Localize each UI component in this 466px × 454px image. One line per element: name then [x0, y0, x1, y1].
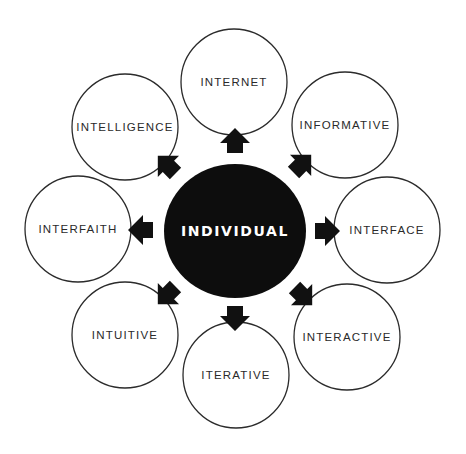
node-label: ITERATIVE	[201, 369, 270, 381]
node-label: INTUITIVE	[92, 329, 158, 341]
node-label: INTELLIGENCE	[76, 121, 173, 133]
node-label: INTERFACE	[349, 224, 424, 236]
node-interfaith: INTERFAITH	[25, 176, 131, 282]
node-label: INTERACTIVE	[302, 331, 391, 343]
center-label: INDIVIDUAL	[181, 223, 289, 239]
arrow-interfaith-icon	[128, 215, 153, 245]
diagram-canvas: INTERNETINFORMATIVEINTERFACEINTERACTIVEI…	[0, 0, 466, 454]
node-label: INFORMATIVE	[300, 119, 391, 131]
node-internet: INTERNET	[181, 29, 287, 135]
node-iterative: ITERATIVE	[183, 322, 289, 428]
center-node: INDIVIDUAL	[164, 164, 306, 298]
node-label: INTERFAITH	[38, 223, 117, 235]
node-label: INTERNET	[200, 76, 267, 88]
node-interface: INTERFACE	[334, 177, 440, 283]
